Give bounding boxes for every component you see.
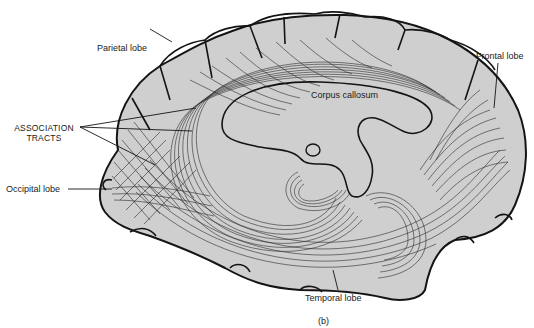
- parietal-leader: [150, 29, 172, 42]
- label-frontal-lobe: Frontal lobe: [476, 51, 524, 61]
- label-occipital-lobe: Occipital lobe: [6, 184, 60, 194]
- label-parietal-lobe: Parietal lobe: [97, 43, 147, 53]
- label-association-line2: TRACTS: [8, 133, 80, 143]
- brain-outline: [100, 15, 526, 300]
- panel-label: (b): [318, 316, 329, 326]
- label-temporal-lobe: Temporal lobe: [305, 293, 362, 303]
- label-association-line1: ASSOCIATION: [8, 123, 80, 133]
- label-corpus-callosum: Corpus callosum: [311, 90, 378, 100]
- label-association-tracts: ASSOCIATION TRACTS: [8, 123, 80, 143]
- brain-illustration: [0, 0, 534, 328]
- brain-diagram: Parietal lobe Frontal lobe Corpus callos…: [0, 0, 534, 328]
